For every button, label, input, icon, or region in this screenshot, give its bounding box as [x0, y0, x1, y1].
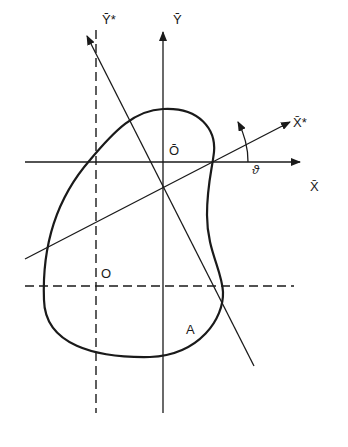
label-theta: ϑ — [252, 162, 260, 177]
y-bar-star-axis — [87, 36, 254, 366]
area-outline — [44, 109, 223, 357]
label-y-bar: Ȳ — [173, 12, 182, 27]
theta-arc — [238, 122, 248, 162]
label-y-bar-star: Ȳ* — [102, 12, 116, 27]
label-origin: O — [101, 266, 111, 281]
label-area: A — [186, 322, 195, 337]
label-centroid: Ō — [169, 143, 179, 158]
cross-section-diagram: Ȳ* Ȳ X̄* X̄ Ō ϑ O A — [0, 0, 348, 447]
label-x-bar: X̄ — [310, 179, 319, 194]
x-bar-star-axis — [25, 122, 290, 259]
label-x-bar-star: X̄* — [293, 115, 307, 130]
